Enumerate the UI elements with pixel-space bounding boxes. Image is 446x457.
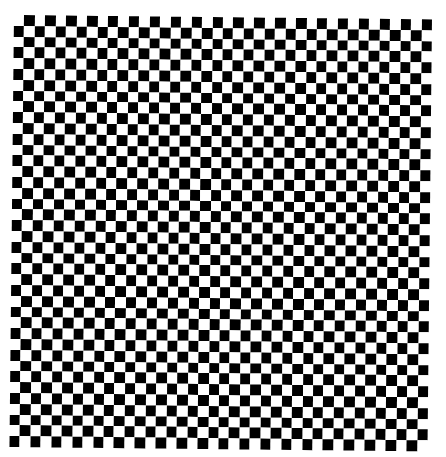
- light-square: [168, 308, 179, 319]
- dark-square: [282, 374, 293, 385]
- dark-square: [367, 246, 378, 257]
- dark-square: [94, 351, 105, 362]
- dark-square: [274, 126, 285, 137]
- light-square: [42, 285, 53, 296]
- dark-square: [419, 278, 430, 289]
- light-square: [42, 328, 53, 339]
- dark-square: [243, 115, 254, 126]
- light-square: [314, 310, 325, 321]
- light-square: [386, 365, 397, 376]
- light-square: [398, 246, 409, 257]
- dark-square: [34, 112, 45, 123]
- dark-square: [325, 288, 336, 299]
- light-square: [305, 148, 316, 159]
- light-square: [63, 307, 74, 318]
- dark-square: [346, 267, 357, 278]
- light-square: [219, 406, 230, 417]
- dark-square: [97, 70, 108, 81]
- light-square: [346, 278, 357, 289]
- light-square: [346, 234, 357, 245]
- dark-square: [243, 93, 254, 104]
- dark-square: [313, 385, 324, 396]
- dark-square: [316, 148, 327, 159]
- light-square: [348, 19, 359, 30]
- dark-square: [73, 372, 84, 383]
- dark-square: [106, 189, 117, 200]
- light-square: [149, 70, 160, 81]
- light-square: [396, 419, 407, 430]
- light-square: [327, 83, 338, 94]
- light-square: [74, 232, 85, 243]
- dark-square: [201, 93, 212, 104]
- light-square: [346, 256, 357, 267]
- dark-square: [209, 363, 220, 374]
- light-square: [202, 17, 213, 28]
- light-square: [148, 200, 159, 211]
- dark-square: [273, 212, 284, 223]
- dark-square: [180, 136, 191, 147]
- dark-square: [192, 17, 203, 28]
- dark-square: [126, 275, 137, 286]
- dark-square: [254, 18, 265, 29]
- light-square: [209, 330, 220, 341]
- dark-square: [252, 277, 263, 288]
- light-square: [315, 245, 326, 256]
- dark-square: [21, 317, 32, 328]
- light-square: [316, 72, 327, 83]
- light-square: [167, 330, 178, 341]
- dark-square: [24, 37, 35, 48]
- light-square: [347, 148, 358, 159]
- dark-square: [74, 264, 85, 275]
- dark-square: [390, 30, 401, 41]
- dark-square: [177, 416, 188, 427]
- dark-square: [220, 244, 231, 255]
- light-square: [146, 373, 157, 384]
- dark-square: [344, 418, 355, 429]
- light-square: [263, 169, 274, 180]
- light-square: [397, 332, 408, 343]
- light-square: [169, 157, 180, 168]
- dark-square: [417, 430, 428, 441]
- light-square: [407, 365, 418, 376]
- dark-square: [222, 114, 233, 125]
- light-square: [388, 170, 399, 181]
- light-square: [63, 329, 74, 340]
- light-square: [284, 212, 295, 223]
- dark-square: [409, 203, 420, 214]
- dark-square: [335, 321, 346, 332]
- dark-square: [168, 297, 179, 308]
- light-square: [51, 426, 62, 437]
- light-square: [160, 17, 171, 28]
- light-square: [231, 201, 242, 212]
- dark-square: [241, 309, 252, 320]
- dark-square: [43, 210, 54, 221]
- dark-square: [283, 245, 294, 256]
- dark-square: [376, 343, 387, 354]
- dark-square: [233, 60, 244, 71]
- dark-square: [158, 243, 169, 254]
- light-square: [22, 199, 33, 210]
- dark-square: [43, 231, 54, 242]
- light-square: [304, 277, 315, 288]
- dark-square: [242, 223, 253, 234]
- dark-square: [418, 322, 429, 333]
- dark-square: [11, 328, 22, 339]
- light-square: [283, 234, 294, 245]
- light-square: [264, 39, 275, 50]
- dark-square: [336, 234, 347, 245]
- light-square: [346, 213, 357, 224]
- dark-square: [190, 168, 201, 179]
- dark-square: [149, 103, 160, 114]
- light-square: [400, 51, 411, 62]
- dark-square: [201, 157, 212, 168]
- dark-square: [22, 253, 33, 264]
- dark-square: [407, 376, 418, 387]
- dark-square: [306, 94, 317, 105]
- dark-square: [294, 212, 305, 223]
- light-square: [115, 318, 126, 329]
- light-square: [347, 105, 358, 116]
- dark-square: [337, 62, 348, 73]
- light-square: [128, 135, 139, 146]
- dark-square: [397, 365, 408, 376]
- dark-square: [126, 254, 137, 265]
